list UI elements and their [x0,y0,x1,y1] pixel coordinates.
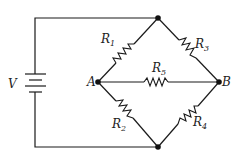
r3-label: R3 [194,37,209,53]
resistor-r5 [98,78,219,86]
resistor-r4 [158,82,219,147]
bottom-left-wire [35,92,158,147]
r2-label: R2 [111,117,126,133]
node-bottom [155,144,161,150]
battery-icon [25,74,46,92]
resistor-r2 [98,82,158,147]
node-a [95,79,101,85]
circuit-diagram: V R1 R3 R5 R2 [0,0,244,161]
node-top [155,15,161,21]
resistor-r3 [158,18,219,82]
r1-label: R1 [100,32,115,48]
node-b-label: B [221,75,231,89]
voltage-label: V [8,77,18,91]
r5-label: R5 [151,61,166,77]
node-a-label: A [86,75,96,89]
node-b [216,79,222,85]
circuit-svg: V R1 R3 R5 R2 [0,0,244,161]
r4-label: R4 [192,115,207,131]
resistor-r1 [98,18,158,82]
top-left-wire [35,18,158,74]
